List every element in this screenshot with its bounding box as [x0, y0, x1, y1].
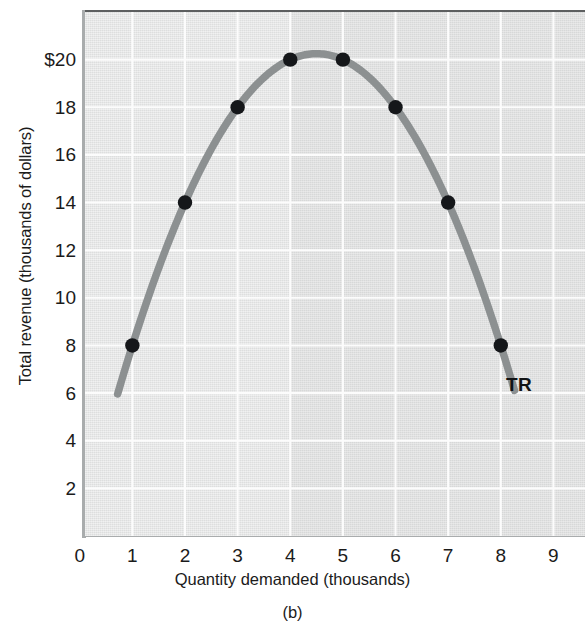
y-axis-tick-label: 18 [18, 98, 76, 117]
data-point-marker [125, 338, 139, 352]
y-axis-tick-label: 14 [18, 193, 76, 212]
plot-area [85, 12, 585, 536]
x-axis-tick-label: 0 [60, 546, 100, 565]
data-point-marker [336, 52, 350, 66]
y-axis-tick-label: $20 [18, 50, 76, 69]
x-axis-tick-label: 8 [481, 546, 521, 565]
x-axis-tick-label: 9 [533, 546, 573, 565]
x-axis-tick-label: 5 [323, 546, 363, 565]
total-revenue-curve [85, 12, 585, 536]
data-point-marker [178, 195, 192, 209]
x-axis-tick-label: 6 [376, 546, 416, 565]
data-point-marker [283, 52, 297, 66]
data-point-marker [388, 100, 402, 114]
x-axis-tick-label: 2 [165, 546, 205, 565]
data-point-marker [494, 338, 508, 352]
y-axis-tick-label: 4 [18, 431, 76, 450]
figure-panel-b: Total revenue (thousands of dollars) 246… [0, 0, 585, 625]
y-axis-tick-label: 16 [18, 145, 76, 164]
y-axis-tick-label: 10 [18, 288, 76, 307]
series-annotation-tr: TR [506, 374, 532, 396]
y-axis-tick-label: 12 [18, 241, 76, 260]
x-axis-tick-label: 7 [428, 546, 468, 565]
y-axis-tick-label: 8 [18, 336, 76, 355]
y-axis-tick-label: 6 [18, 384, 76, 403]
data-point-marker [441, 195, 455, 209]
y-axis-tick-labels: 24681012141618$20 [12, 0, 76, 545]
x-axis-tick-label: 4 [270, 546, 310, 565]
x-axis-tick-label: 1 [112, 546, 152, 565]
x-axis-title: Quantity demanded (thousands) [0, 570, 585, 589]
y-axis-tick-label: 2 [18, 479, 76, 498]
x-axis-tick-labels: 0123456789 [0, 546, 585, 570]
x-axis-tick-label: 3 [218, 546, 258, 565]
data-point-marker [230, 100, 244, 114]
figure-caption: (b) [0, 603, 585, 622]
